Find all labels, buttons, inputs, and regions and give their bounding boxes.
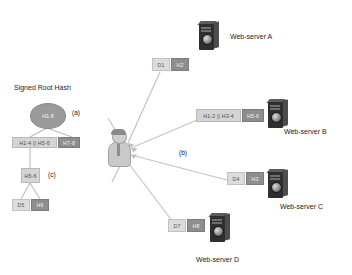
merkle-level2-left-node: H1-4 || H5-6	[12, 137, 57, 148]
edge-client-down	[112, 166, 120, 182]
server-icon-b	[268, 100, 288, 128]
server-slot-d1	[212, 219, 222, 221]
server-label-a: Web-server A	[230, 33, 272, 40]
page-title: Signed Root Hash	[14, 84, 71, 91]
merkle-level3-node: H5-6	[21, 168, 40, 183]
edge-root-to-right	[47, 128, 72, 137]
server-slot-b1	[270, 105, 280, 107]
server-slot-a1	[201, 27, 211, 29]
payload-data-server-b: H1-2 || H3-4	[196, 109, 241, 122]
server-lens-c	[271, 182, 282, 193]
merkle-leaf-data-node: D5	[12, 199, 30, 211]
client-figure	[106, 130, 132, 166]
annotation-c: (c)	[48, 171, 56, 178]
edge-client-server-d	[126, 160, 176, 226]
server-slot-a2	[201, 30, 211, 32]
payload-hash-server-a: H2	[171, 58, 189, 71]
edge-mid-to-leafhash	[30, 183, 40, 199]
client-tie	[117, 143, 120, 156]
payload-hash-server-d: H8	[187, 219, 205, 232]
server-slot-c2	[270, 178, 280, 180]
edge-client-server-a	[128, 72, 160, 143]
payload-data-server-c: D4	[227, 172, 245, 185]
edge-client-server-b	[131, 120, 197, 148]
server-label-c: Web-server C	[280, 203, 323, 210]
edge-mid-to-leafdata	[21, 183, 30, 199]
payload-data-server-d: D7	[168, 219, 186, 232]
server-lens-d	[213, 226, 224, 237]
server-slot-b2	[270, 108, 280, 110]
annotation-a: (a)	[72, 109, 80, 116]
client-hair	[111, 129, 126, 135]
server-icon-d	[210, 214, 230, 242]
server-icon-c	[268, 170, 288, 198]
payload-hash-server-b: H5-6	[242, 109, 264, 122]
server-label-b: Web-server B	[284, 128, 327, 135]
payload-hash-server-c: H3	[246, 172, 264, 185]
merkle-root-node: H1-8	[30, 103, 66, 129]
server-slot-c1	[270, 175, 280, 177]
server-lens-b	[271, 112, 282, 123]
server-icon-a	[199, 22, 219, 50]
edge-client-server-c	[131, 155, 227, 180]
edge-root-to-left	[30, 128, 47, 137]
server-slot-d2	[212, 222, 222, 224]
merkle-leaf-hash-node: H6	[31, 199, 49, 211]
payload-data-server-a: D1	[152, 58, 170, 71]
server-label-d: Web-server D	[196, 256, 239, 263]
diagram-canvas: Signed Root Hash H1-8 (a) H1-4 || H5-6 H…	[0, 0, 352, 275]
merkle-level2-right-node: H7-8	[58, 137, 80, 148]
server-lens-a	[202, 34, 213, 45]
annotation-b: (b)	[179, 149, 187, 156]
